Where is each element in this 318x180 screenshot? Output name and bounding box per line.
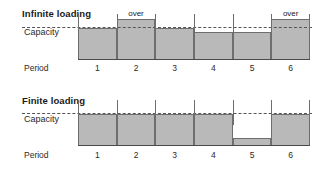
plot-left-edge — [78, 14, 79, 39]
bar-fill — [271, 114, 310, 146]
period-tick-label: 4 — [194, 150, 233, 160]
over-label: over — [117, 9, 156, 18]
bar-fill — [78, 28, 117, 60]
bar-fill — [271, 19, 310, 60]
baseline-axis — [78, 59, 310, 60]
bar-cell: over — [117, 14, 156, 60]
infinite-loading-chart: Infinite loading Capacity Period overove… — [0, 0, 318, 90]
period-divider — [194, 100, 195, 125]
period-tick-label: 4 — [194, 63, 233, 73]
bar-cell — [271, 100, 310, 146]
plot-right-edge — [309, 100, 310, 125]
capacity-axis-label: Capacity — [24, 27, 59, 37]
period-tick-label: 5 — [233, 150, 272, 160]
bar-cell: over — [271, 14, 310, 60]
capacity-line — [22, 113, 312, 114]
period-axis-label: Period — [24, 150, 49, 160]
bar-cell — [233, 14, 272, 60]
plot-right-edge — [309, 14, 310, 39]
period-axis-label: Period — [24, 63, 49, 73]
period-divider — [233, 100, 234, 125]
period-divider — [117, 100, 118, 125]
finite-loading-chart: Finite loading Capacity Period 123456 — [0, 88, 318, 180]
bar-cell — [155, 14, 194, 60]
period-tick-label: 2 — [117, 63, 156, 73]
period-tick-label: 6 — [271, 150, 310, 160]
plot-left-edge — [78, 100, 79, 125]
period-tick-label: 6 — [271, 63, 310, 73]
period-divider — [194, 14, 195, 39]
period-divider — [233, 14, 234, 39]
bar-cell — [78, 14, 117, 60]
period-tick-label: 2 — [117, 150, 156, 160]
bar-fill — [155, 114, 194, 146]
bar-fill — [78, 114, 117, 146]
period-tick-label: 3 — [155, 150, 194, 160]
bar-cell — [233, 100, 272, 146]
bar-fill — [194, 32, 233, 60]
period-divider — [155, 14, 156, 39]
bar-cell — [117, 100, 156, 146]
period-divider — [271, 100, 272, 125]
bar-cell — [194, 100, 233, 146]
period-divider — [271, 14, 272, 39]
baseline-axis — [78, 145, 310, 146]
capacity-line — [22, 27, 312, 28]
period-tick-label: 1 — [78, 63, 117, 73]
chart-title: Finite loading — [22, 95, 85, 106]
period-tick-label: 1 — [78, 150, 117, 160]
period-tick-label: 3 — [155, 63, 194, 73]
bar-cell — [194, 14, 233, 60]
over-label: over — [271, 9, 310, 18]
capacity-axis-label: Capacity — [24, 114, 59, 124]
bar-cell — [78, 100, 117, 146]
bar-cell — [155, 100, 194, 146]
bar-fill — [117, 19, 156, 60]
bar-fill — [233, 32, 272, 60]
bar-fill — [194, 114, 233, 146]
period-divider — [117, 14, 118, 39]
period-tick-label: 5 — [233, 63, 272, 73]
bar-fill — [117, 114, 156, 146]
period-divider — [155, 100, 156, 125]
bar-fill — [155, 28, 194, 60]
